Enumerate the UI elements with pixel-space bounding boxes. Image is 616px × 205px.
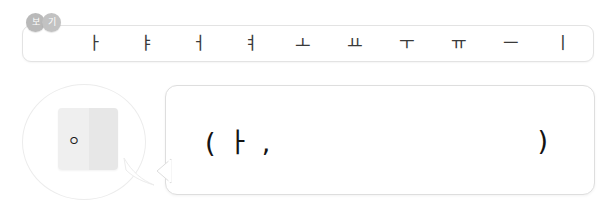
consonant-card-right-panel [89, 108, 118, 170]
vowel-key-ya[interactable]: ㅑ [121, 35, 173, 52]
consonant-card-glyph: ㅇ [58, 108, 89, 170]
vowel-key-yu[interactable]: ㅠ [433, 35, 485, 52]
view-badges[interactable]: 보 기 [26, 13, 61, 32]
vowel-key-i[interactable]: ㅣ [537, 35, 589, 52]
vowel-key-a[interactable]: ㅏ [69, 35, 121, 52]
view-badge-gi[interactable]: 기 [42, 13, 61, 32]
vowel-key-u[interactable]: ㅜ [381, 35, 433, 52]
vowel-key-o[interactable]: ㅗ [277, 35, 329, 52]
answer-prefix-text: ( ㅏ , [205, 121, 271, 160]
vowel-key-yeo[interactable]: ㅕ [225, 35, 277, 52]
answer-suffix-text: ) [537, 125, 555, 156]
consonant-card[interactable]: ㅇ [58, 108, 118, 170]
korean-vowel-toolbar[interactable]: ㅏ ㅑ ㅓ ㅕ ㅗ ㅛ ㅜ ㅠ ㅡ ㅣ [22, 25, 594, 62]
answer-box-tail-icon [156, 158, 172, 184]
vowel-key-eo[interactable]: ㅓ [173, 35, 225, 52]
bubble-tail-icon [122, 156, 156, 188]
vowel-key-eu[interactable]: ㅡ [485, 35, 537, 52]
answer-text-row: ( ㅏ , ) [205, 112, 555, 168]
vowel-key-yo[interactable]: ㅛ [329, 35, 381, 52]
